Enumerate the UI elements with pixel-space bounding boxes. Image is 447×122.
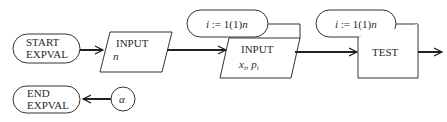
- input-n-parallelogram: INPUT n: [100, 32, 172, 72]
- loop1-indicator: i := 1(1)n: [187, 10, 300, 38]
- start-label-line2: EXPVAL: [26, 48, 68, 60]
- alpha-connector: α: [111, 87, 135, 111]
- start-label-line1: START: [26, 36, 60, 48]
- test-label: TEST: [372, 46, 399, 58]
- input-n-variable: n: [113, 50, 119, 62]
- loop2-label: i := 1(1)n: [335, 18, 377, 31]
- input-xp-label: INPUT: [241, 43, 274, 55]
- flowchart-canvas: START EXPVAL INPUT n i := 1(1)n INPUT xi…: [0, 0, 447, 122]
- end-terminal: END EXPVAL: [13, 86, 80, 113]
- end-label-line1: END: [27, 87, 50, 99]
- input-xp-parallelogram: INPUT xi, pi: [220, 38, 300, 78]
- end-label-line2: EXPVAL: [27, 99, 69, 111]
- alpha-label: α: [119, 93, 125, 105]
- input-n-label: INPUT: [116, 37, 149, 49]
- input-xp-variables: xi, pi: [238, 58, 259, 72]
- start-terminal: START EXPVAL: [13, 34, 80, 63]
- loop1-label: i := 1(1)n: [206, 18, 248, 31]
